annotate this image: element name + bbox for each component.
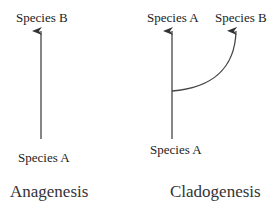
cladogenesis-top-left-label: Species A (147, 11, 199, 25)
cladogenesis-branch-arrow (172, 31, 236, 91)
cladogenesis-top-right-label: Species B (215, 11, 267, 25)
anagenesis-bottom-label: Species A (18, 151, 70, 165)
anagenesis-caption: Anagenesis (10, 183, 88, 201)
cladogenesis-caption: Cladogenesis (170, 183, 261, 201)
anagenesis-top-label: Species B (16, 11, 68, 25)
cladogenesis-bottom-label: Species A (150, 143, 202, 157)
